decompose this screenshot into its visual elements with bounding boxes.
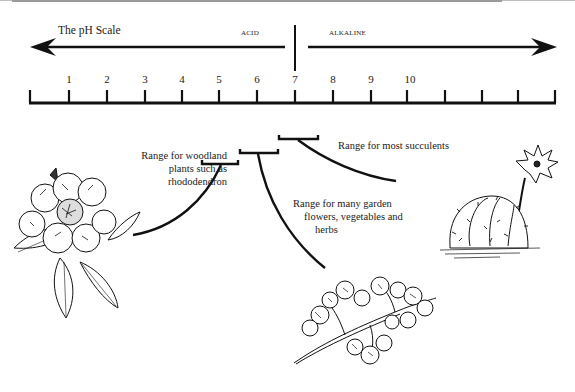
note-woodland: Range for woodland plants such as rhodod… xyxy=(141,149,227,188)
acid-label: ACID xyxy=(241,29,259,37)
tick-label-10: 10 xyxy=(405,73,416,85)
alkaline-label: ALKALINE xyxy=(329,29,366,37)
parsley-illustration xyxy=(294,277,436,364)
tick-label-7: 7 xyxy=(292,73,298,85)
tick-label-6: 6 xyxy=(254,73,260,85)
acid-arrow-icon xyxy=(30,38,285,56)
diagram-title: The pH Scale xyxy=(58,24,121,36)
tick-label-8: 8 xyxy=(330,73,336,85)
note-garden-line-3: herbs xyxy=(293,223,403,236)
note-garden-line-2: flowers, vegetables and xyxy=(293,210,403,223)
tick-label-5: 5 xyxy=(216,73,222,85)
note-garden-line-1: Range for many garden xyxy=(293,197,403,210)
ph-diagram xyxy=(0,0,575,392)
tick-label-3: 3 xyxy=(142,73,148,85)
tick-label-2: 2 xyxy=(104,73,110,85)
ph-scale-ruler xyxy=(29,90,556,103)
cactus-illustration xyxy=(440,145,558,258)
tick-label-4: 4 xyxy=(179,73,185,85)
note-woodland-line-3: rhododendron xyxy=(141,175,227,188)
note-woodland-line-2: plants such as xyxy=(141,162,227,175)
note-succulents: Range for most succulents xyxy=(338,139,449,152)
note-succulents-line-1: Range for most succulents xyxy=(338,139,449,152)
tick-label-1: 1 xyxy=(66,73,72,85)
alkaline-arrow-icon xyxy=(308,38,557,56)
rhododendron-illustration xyxy=(14,168,140,318)
tick-label-9: 9 xyxy=(368,73,374,85)
note-woodland-line-1: Range for woodland xyxy=(141,149,227,162)
note-garden: Range for many garden flowers, vegetable… xyxy=(293,197,403,236)
